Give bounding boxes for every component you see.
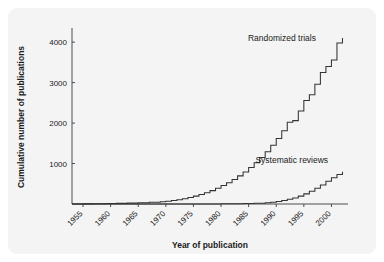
x-tick-label: 1985 [231, 209, 250, 228]
annotation-randomized-trials: Randomized trials [248, 33, 316, 43]
y-tick-labels: 1000200030004000 [49, 38, 67, 168]
x-tick-label: 2000 [314, 209, 333, 228]
x-tick-labels: 1955196019651970197519801985199019952000 [66, 209, 334, 228]
y-axis-title: Cumulative number of publications [16, 46, 26, 188]
series-line-systematic-reviews [72, 172, 342, 204]
y-tick-label: 4000 [49, 38, 67, 47]
x-tick-label: 1990 [259, 209, 278, 228]
y-tick-label: 3000 [49, 79, 67, 88]
y-tick-label: 2000 [49, 119, 67, 128]
annotation-systematic-reviews: Systematic reviews [255, 155, 328, 165]
x-tick-label: 1975 [176, 209, 195, 228]
axis-lines [72, 28, 348, 204]
x-tick-label: 1995 [286, 209, 305, 228]
x-tick-label: 1980 [204, 209, 223, 228]
chart-figure: 1955196019651970197519801985199019952000… [0, 0, 384, 262]
plot-area: 1955196019651970197519801985199019952000… [49, 28, 348, 228]
data-series [72, 38, 342, 204]
x-tick-label: 1960 [93, 209, 112, 228]
x-tick-label: 1965 [121, 209, 140, 228]
x-tick-label: 1955 [66, 209, 85, 228]
x-axis-title: Year of publication [172, 240, 248, 250]
series-line-randomized-trials [72, 38, 342, 204]
x-tick-label: 1970 [148, 209, 167, 228]
y-tick-label: 1000 [49, 160, 67, 169]
series-annotations: Randomized trialsSystematic reviews [248, 33, 328, 164]
